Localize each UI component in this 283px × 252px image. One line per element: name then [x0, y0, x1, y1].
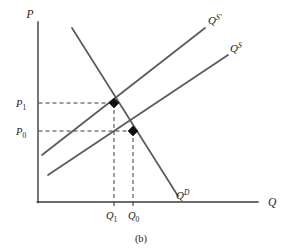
supply-demand-figure: P Q P1 P0 Q1	[0, 0, 283, 252]
supply-label-sup: S	[238, 41, 242, 50]
price-label-p0: P0	[15, 126, 26, 140]
demand-curve	[72, 28, 178, 196]
demand-curve-label: QD	[176, 188, 190, 201]
supply-shifted-label-prime: ′	[220, 12, 222, 22]
quantity-label-q0-sub: 0	[136, 215, 140, 224]
equilibrium-point-e0	[128, 126, 138, 136]
demand-label-base: Q	[176, 189, 184, 201]
supply-shifted-curve-label: QS′	[208, 12, 222, 26]
supply-curve-label: QS	[230, 41, 242, 54]
quantity-axis-label: Q	[268, 196, 277, 208]
quantity-label-q1-sub: 1	[114, 215, 118, 224]
quantity-label-q0: Q0	[128, 210, 140, 224]
figure-caption: (b)	[135, 233, 148, 245]
price-label-p1: P1	[15, 98, 26, 112]
supply-label-base: Q	[230, 42, 238, 54]
supply-shifted-label-base: Q	[208, 14, 216, 26]
guide-lines-group	[39, 103, 134, 202]
price-value-labels: P1 P0	[15, 98, 26, 140]
supply-curve-shifted	[42, 28, 205, 155]
supply-demand-chart: P Q P1 P0 Q1	[0, 0, 283, 252]
demand-label-sup: D	[183, 188, 190, 197]
quantity-value-labels: Q1 Q0	[106, 210, 140, 224]
supply-curve	[48, 55, 228, 175]
price-label-p1-sub: 1	[22, 103, 26, 112]
price-axis-label: P	[25, 8, 33, 20]
axes-group	[37, 22, 258, 203]
price-label-p0-sub: 0	[22, 131, 26, 140]
quantity-label-q1: Q1	[106, 210, 118, 224]
